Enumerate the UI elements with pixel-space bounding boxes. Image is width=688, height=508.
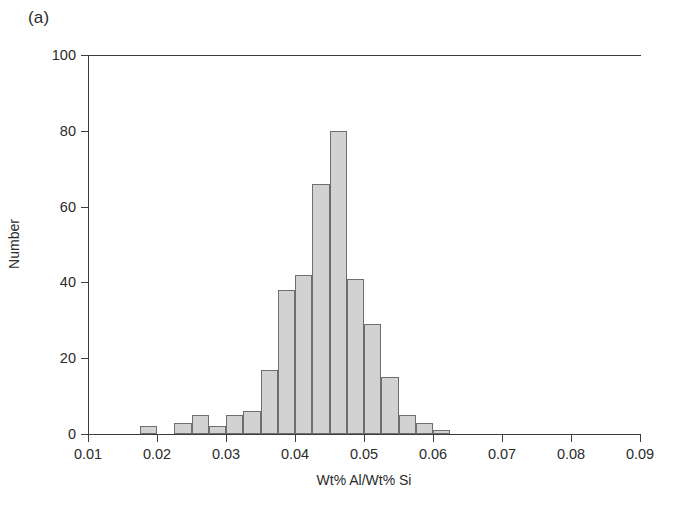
histogram-bar bbox=[433, 430, 450, 434]
x-tick-label: 0.06 bbox=[419, 446, 447, 462]
histogram-bar bbox=[347, 279, 364, 434]
x-tick-mark bbox=[226, 435, 227, 442]
y-tick-label: 40 bbox=[0, 274, 76, 290]
histogram-bar bbox=[295, 275, 312, 434]
histogram-bar bbox=[399, 415, 416, 434]
histogram-figure: (a) 0.010.020.030.040.050.060.070.080.09… bbox=[0, 0, 688, 508]
x-tick-mark bbox=[88, 435, 89, 442]
x-tick-label: 0.08 bbox=[557, 446, 585, 462]
x-tick-label: 0.07 bbox=[488, 446, 516, 462]
y-tick-label: 60 bbox=[0, 199, 76, 215]
y-tick-mark bbox=[81, 55, 88, 56]
y-tick-label: 0 bbox=[0, 426, 76, 442]
histogram-bar bbox=[209, 426, 226, 434]
histogram-bar bbox=[381, 377, 398, 434]
x-tick-mark bbox=[433, 435, 434, 442]
histogram-bar bbox=[261, 370, 278, 434]
x-tick-label: 0.03 bbox=[212, 446, 240, 462]
histogram-bar bbox=[416, 423, 433, 434]
histogram-bar bbox=[364, 324, 381, 434]
x-tick-mark bbox=[640, 435, 641, 442]
y-tick-mark bbox=[81, 207, 88, 208]
y-tick-label: 20 bbox=[0, 350, 76, 366]
histogram-bar bbox=[140, 426, 157, 434]
x-tick-mark bbox=[502, 435, 503, 442]
histogram-bar bbox=[226, 415, 243, 434]
y-axis-label: Number bbox=[6, 219, 22, 269]
y-tick-mark bbox=[81, 434, 88, 435]
panel-label: (a) bbox=[28, 8, 49, 28]
x-tick-mark bbox=[364, 435, 365, 442]
x-tick-label: 0.05 bbox=[350, 446, 378, 462]
histogram-bar bbox=[243, 411, 260, 434]
y-tick-mark bbox=[81, 131, 88, 132]
histogram-bar bbox=[174, 423, 191, 434]
y-tick-mark bbox=[81, 358, 88, 359]
x-axis-label: Wt% Al/Wt% Si bbox=[88, 472, 640, 488]
histogram-bar bbox=[330, 131, 347, 434]
x-tick-label: 0.04 bbox=[281, 446, 309, 462]
y-tick-mark bbox=[81, 282, 88, 283]
x-tick-mark bbox=[157, 435, 158, 442]
histogram-bar bbox=[312, 184, 329, 434]
x-tick-label: 0.09 bbox=[626, 446, 654, 462]
histogram-bar bbox=[192, 415, 209, 434]
x-tick-mark bbox=[571, 435, 572, 442]
x-tick-label: 0.02 bbox=[143, 446, 171, 462]
histogram-bars bbox=[88, 55, 640, 434]
y-tick-label: 80 bbox=[0, 123, 76, 139]
y-tick-label: 100 bbox=[0, 47, 76, 63]
x-tick-mark bbox=[295, 435, 296, 442]
x-tick-label: 0.01 bbox=[74, 446, 102, 462]
histogram-bar bbox=[278, 290, 295, 434]
